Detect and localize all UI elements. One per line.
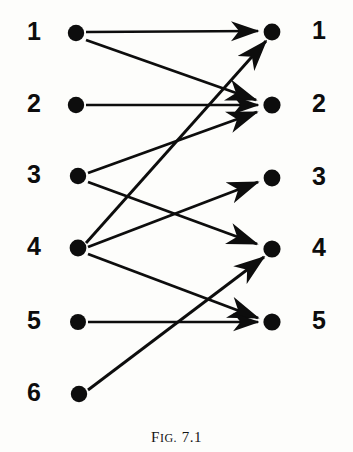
left-node-label-6: 6 [21,380,47,405]
left-node-6[interactable] [71,386,87,402]
left-node-1[interactable] [68,25,84,41]
right-node-3[interactable] [264,170,281,187]
left-node-label-3: 3 [21,162,47,187]
edge-l4-r5 [88,254,258,318]
figure-caption-prefix-rest: IG. [160,431,177,445]
left-node-5[interactable] [70,314,86,330]
right-node-label-1: 1 [306,18,332,43]
left-node-label-2: 2 [21,91,47,116]
left-node-label-1: 1 [21,19,47,44]
right-node-label-4: 4 [306,235,332,260]
edge-l1-r2 [86,40,256,100]
edges-layer [86,31,266,390]
left-node-2[interactable] [68,97,84,113]
bipartite-graph-svg [0,0,353,452]
edge-l6-r4 [88,257,264,390]
right-node-1[interactable] [264,24,281,41]
left-node-3[interactable] [70,168,86,184]
figure-container: 1 2 3 4 5 6 1 2 3 4 5 FIG. 7.1 [0,0,353,452]
left-node-label-5: 5 [21,308,47,333]
figure-caption-number: 7.1 [182,429,202,445]
right-node-4[interactable] [263,240,280,257]
figure-caption-prefix: FIG. [151,429,177,445]
figure-caption-prefix-initial: F [151,429,160,445]
right-node-label-2: 2 [306,91,332,116]
edge-l1-r1 [86,31,258,32]
left-node-label-4: 4 [21,234,47,259]
figure-caption: FIG. 7.1 [0,428,353,446]
right-node-label-3: 3 [306,164,332,189]
right-node-2[interactable] [263,96,280,113]
edge-l3-r2 [88,112,257,173]
right-node-label-5: 5 [306,308,332,333]
left-node-4[interactable] [70,240,87,257]
right-node-5[interactable] [263,313,280,330]
